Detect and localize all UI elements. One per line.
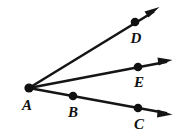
point-b-dot	[69, 92, 78, 101]
ray-abc-line	[29, 88, 167, 113]
point-d-dot	[131, 18, 140, 27]
geometry-figure: A D E B C	[0, 0, 174, 130]
point-d-label: D	[130, 30, 142, 46]
ray-abc-arrow-icon	[157, 110, 173, 118]
ray-ae-arrow-icon	[158, 58, 173, 66]
point-c-dot	[134, 104, 143, 113]
vertex-a-dot	[24, 83, 33, 92]
vertex-a-group: A	[21, 83, 34, 113]
ray-abc-group	[29, 88, 173, 118]
point-d-group: D	[130, 18, 142, 46]
point-e-label: E	[133, 74, 144, 90]
point-e-dot	[134, 63, 143, 72]
vertex-a-label: A	[21, 97, 32, 113]
ray-ae-group	[29, 58, 173, 89]
geometry-canvas: A D E B C	[0, 0, 174, 130]
point-c-label: C	[134, 116, 145, 130]
point-b-label: B	[67, 104, 78, 120]
